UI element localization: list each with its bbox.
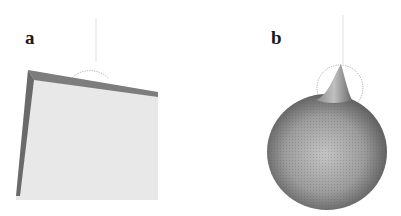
figure-canvas	[0, 0, 401, 216]
cube-rendering	[16, 18, 158, 200]
sphere-rendering	[267, 15, 387, 210]
